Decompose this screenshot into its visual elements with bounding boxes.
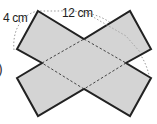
net-outline (17, 11, 151, 116)
box-net-diagram: 4 cm 12 cm ) (0, 0, 157, 124)
length-label: 12 cm (62, 6, 93, 20)
width-label: 4 cm (3, 11, 28, 25)
partial-marker: ) (0, 61, 3, 77)
